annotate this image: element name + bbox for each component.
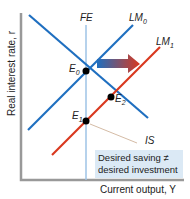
x-axis-label: Current output, Y [100,184,176,195]
is-label: IS [145,135,154,146]
fe-label: FE [80,12,93,23]
note-pointer [90,124,137,143]
y-axis-label: Real interest rate, r [6,29,17,119]
point-e2 [108,94,115,101]
is-lm-diagram: Real interest rate, r FE LM0 LM1 IS E0 E… [0,0,190,199]
lm1-label: LM1 [156,36,174,49]
lm0-label: LM0 [129,12,147,25]
note-line-2: desired investment [98,164,180,176]
point-e1 [83,118,90,125]
shift-arrow-icon [97,54,140,73]
note-line-1: Desired saving ≠ [98,152,180,164]
e0-label: E0 [69,63,80,76]
e2-label: E2 [115,93,126,106]
e1-label: E1 [72,110,83,123]
point-e0 [83,68,90,75]
note-box: Desired saving ≠ desired investment [95,150,183,178]
